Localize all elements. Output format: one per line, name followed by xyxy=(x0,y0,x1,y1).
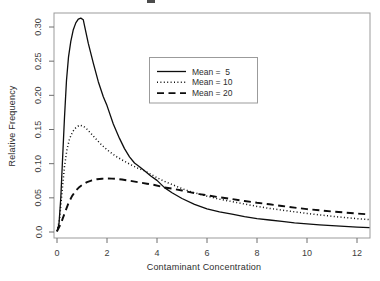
curves xyxy=(57,18,370,231)
y-tick-label: 0.20 xyxy=(34,87,44,105)
legend-label: Mean = 20 xyxy=(192,88,233,98)
legend: Mean = 5Mean = 10Mean = 20 xyxy=(150,58,258,104)
y-tick-label: 0.10 xyxy=(34,155,44,173)
curve-dashed xyxy=(57,179,370,232)
x-tick-label: 8 xyxy=(254,248,259,258)
x-tick-label: 2 xyxy=(104,248,109,258)
y-tick-label: 0.30 xyxy=(34,18,44,36)
x-tick-label: 12 xyxy=(352,248,362,258)
legend-label: Mean = 10 xyxy=(192,77,233,87)
x-tick-label: 0 xyxy=(54,248,59,258)
y-tick-label: 0.15 xyxy=(34,121,44,139)
curve-solid xyxy=(57,18,370,231)
x-tick-label: 10 xyxy=(302,248,312,258)
y-tick-label: 0.0 xyxy=(34,226,44,239)
y-axis-title: Relative Frequency xyxy=(7,85,17,166)
legend-label: Mean = 5 xyxy=(192,67,230,77)
y-axis: 0.00.050.100.150.200.250.30 xyxy=(34,18,55,238)
plot-box xyxy=(54,13,370,238)
chart-canvas: 024681012 0.00.050.100.150.200.250.30 Me… xyxy=(0,0,380,281)
plot-figure: 024681012 0.00.050.100.150.200.250.30 Me… xyxy=(0,0,380,281)
x-axis: 024681012 xyxy=(54,238,362,258)
y-tick-label: 0.25 xyxy=(34,52,44,70)
y-tick-label: 0.05 xyxy=(34,189,44,207)
x-tick-label: 4 xyxy=(154,248,159,258)
x-tick-label: 6 xyxy=(204,248,209,258)
x-axis-title: Contaminant Concentration xyxy=(147,262,262,272)
curve-dotted xyxy=(57,125,370,231)
